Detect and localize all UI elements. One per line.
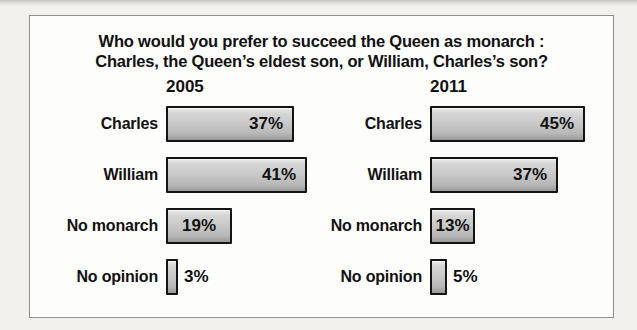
column-2011: 2011 Charles45%William37%No monarch13%No… <box>312 77 585 310</box>
bar-2011-no-monarch: 13% <box>430 208 475 244</box>
bar-row-2011-0: Charles45% <box>312 106 585 142</box>
category-label: Charles <box>312 115 422 133</box>
bar-group-2011: Charles45%William37%No monarch13%No opin… <box>312 106 585 295</box>
bar-row-2011-1: William37% <box>312 157 585 193</box>
bar-2005-william: 41% <box>166 157 307 193</box>
year-header-2011: 2011 <box>430 77 585 98</box>
bar-row-2005-3: No opinion3% <box>48 259 307 295</box>
bar-row-2011-3: No opinion5% <box>312 259 585 295</box>
value-label: 37% <box>168 114 292 134</box>
bar-2011-charles: 45% <box>430 106 585 142</box>
bar-row-2005-2: No monarch19% <box>48 208 307 244</box>
bar-row-2011-2: No monarch13% <box>312 208 585 244</box>
bar-2011-william: 37% <box>430 157 558 193</box>
column-2005: 2005 Charles37%William41%No monarch19%No… <box>48 77 307 310</box>
bar-2005-no-opinion <box>166 259 178 295</box>
value-label: 19% <box>168 216 230 236</box>
value-label: 41% <box>168 165 305 185</box>
chart-title: Who would you prefer to succeed the Quee… <box>30 31 613 71</box>
bar-row-2005-0: Charles37% <box>48 106 307 142</box>
bar-2005-no-monarch: 19% <box>166 208 232 244</box>
chart-title-line2: Charles, the Queen’s eldest son, or Will… <box>30 51 613 71</box>
category-label: No opinion <box>48 268 158 286</box>
scan-artifact-strip <box>0 0 637 6</box>
category-label: William <box>48 166 158 184</box>
value-label: 37% <box>432 165 556 185</box>
bar-row-2005-1: William41% <box>48 157 307 193</box>
value-label: 5% <box>453 267 478 287</box>
category-label: Charles <box>48 115 158 133</box>
bar-2005-charles: 37% <box>166 106 294 142</box>
bar-2011-no-opinion <box>430 259 447 295</box>
value-label: 45% <box>432 114 583 134</box>
category-label: No monarch <box>48 217 158 235</box>
category-label: No monarch <box>312 217 422 235</box>
category-label: William <box>312 166 422 184</box>
category-label: No opinion <box>312 268 422 286</box>
chart-title-line1: Who would you prefer to succeed the Quee… <box>30 31 613 51</box>
chart-frame: Who would you prefer to succeed the Quee… <box>29 15 614 318</box>
year-header-2005: 2005 <box>166 77 307 98</box>
value-label: 3% <box>184 267 209 287</box>
value-label: 13% <box>432 216 473 236</box>
bar-group-2005: Charles37%William41%No monarch19%No opin… <box>48 106 307 295</box>
